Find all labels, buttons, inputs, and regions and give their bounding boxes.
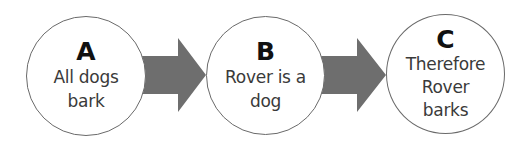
syllogism-diagram: A All dogs bark B Rover is a dog C There… [0,0,528,145]
arrow-b-to-c-icon [318,38,386,112]
node-c-letter: C [436,27,454,53]
node-b-text-line-1: Rover is a [225,65,306,89]
node-a-premise-major: A All dogs bark [26,16,146,136]
node-a-letter: A [76,39,95,65]
node-c-conclusion: C Therefore Rover barks [386,14,505,134]
node-c-text-line-1: Therefore [406,53,485,76]
node-a-text-line-2: bark [68,89,105,113]
node-b-letter: B [256,39,275,65]
node-c-text-line-2: Rover [422,76,469,99]
node-c-text-line-3: barks [423,99,468,122]
arrow-a-to-b-icon [140,38,206,112]
node-b-text-line-2: dog [250,89,281,113]
node-a-text-line-1: All dogs [54,65,119,89]
node-b-premise-minor: B Rover is a dog [206,16,325,135]
